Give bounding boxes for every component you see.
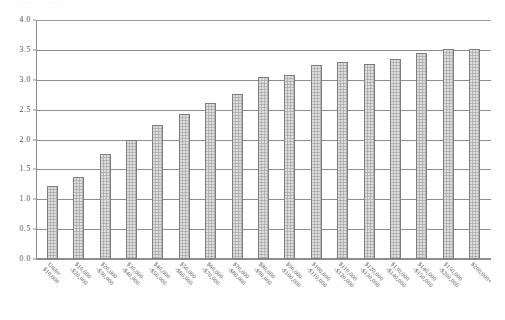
x-tick-label: $50,000-$60,000: [174, 261, 199, 286]
x-tick-label: $40,000-$50,000: [148, 261, 173, 286]
bar-slot: [409, 20, 435, 259]
x-label-slot: $70,000-$80,000: [224, 260, 250, 320]
x-label-slot: $140,000-$150,000: [409, 260, 435, 320]
bar-slot: [92, 20, 118, 259]
bar[interactable]: [258, 77, 269, 259]
bar[interactable]: [232, 94, 243, 259]
x-label-slot: $130,000-$140,000: [382, 260, 408, 320]
bar-slot: [329, 20, 355, 259]
y-tick-label: 0.0: [20, 255, 31, 263]
bar-slot: [250, 20, 276, 259]
bar-slot: [356, 20, 382, 259]
bar-slot: [303, 20, 329, 259]
x-label-slot: $50,000-$60,000: [171, 260, 197, 320]
bar[interactable]: [47, 186, 58, 259]
x-tick-label: $30,000-$40,000: [121, 261, 146, 286]
bars-container: [36, 20, 491, 259]
bar[interactable]: [284, 75, 295, 259]
bar-slot: [382, 20, 408, 259]
x-tick-label: $70,000-$80,000: [227, 261, 252, 286]
bar[interactable]: [205, 103, 216, 259]
bar[interactable]: [311, 65, 322, 259]
x-label-slot: $200,000+: [462, 260, 488, 320]
y-tick-label: 2.5: [20, 106, 31, 114]
bar-slot: [224, 20, 250, 259]
x-label-slot: $120,000-$130,000: [356, 260, 382, 320]
x-tick-label-line: $200,000+: [469, 261, 493, 285]
x-tick-label: $10,000-$20,000: [68, 261, 93, 286]
x-label-slot: $10,000-$20,000: [65, 260, 91, 320]
plot-area: 4.03.53.02.52.01.51.00.50.0: [36, 20, 491, 259]
x-tick-label: $200,000+: [469, 261, 493, 285]
y-tick-label: 3.5: [20, 46, 31, 54]
x-label-slot: $80,000-$90,000: [250, 260, 276, 320]
x-label-slot: Under$10,000: [39, 260, 65, 320]
x-label-slot: $20,000-$30,000: [92, 260, 118, 320]
x-tick-label: $20,000-$30,000: [95, 261, 120, 286]
bar[interactable]: [337, 62, 348, 259]
bar[interactable]: [73, 177, 84, 259]
y-tick-label: 2.0: [20, 136, 31, 144]
bar[interactable]: [469, 49, 480, 259]
x-label-slot: $40,000-$50,000: [145, 260, 171, 320]
x-label-slot: $100,000-$110,000: [303, 260, 329, 320]
bar-slot: [65, 20, 91, 259]
x-label-slot: $90,000-$100,000: [277, 260, 303, 320]
y-tick-label: 1.5: [20, 165, 31, 173]
bar[interactable]: [416, 53, 427, 259]
bar[interactable]: [390, 59, 401, 259]
bar-slot: [197, 20, 223, 259]
y-tick-label: 0.5: [20, 225, 31, 233]
bar-slot: [118, 20, 144, 259]
x-label-slot: $60,000-$70,000: [197, 260, 223, 320]
bar[interactable]: [364, 64, 375, 259]
x-tick-label: Under$10,000: [42, 261, 66, 285]
bar-slot: [39, 20, 65, 259]
bar-slot: [435, 20, 461, 259]
x-tick-label: $80,000-$90,000: [253, 261, 278, 286]
x-tick-label: $60,000-$70,000: [200, 261, 225, 286]
bar-slot: [277, 20, 303, 259]
y-tick-label: 3.0: [20, 76, 31, 84]
bar-chart-figure: ······ ···· ····· · · · · · 4.03.53.02.5…: [0, 0, 505, 320]
bar-slot: [171, 20, 197, 259]
bar[interactable]: [100, 154, 111, 259]
bar[interactable]: [179, 114, 190, 259]
title-remnant: ······ ···· ····· · · · · ·: [0, 0, 505, 11]
bar[interactable]: [152, 125, 163, 259]
bar[interactable]: [126, 140, 137, 259]
x-label-slot: $150,000-$200,000: [435, 260, 461, 320]
x-label-slot: $30,000-$40,000: [118, 260, 144, 320]
y-tick-label: 1.0: [20, 195, 31, 203]
bar[interactable]: [443, 49, 454, 259]
bar-slot: [145, 20, 171, 259]
y-tick-label: 4.0: [20, 16, 31, 24]
bar-slot: [462, 20, 488, 259]
x-axis-tick-labels: Under$10,000$10,000-$20,000$20,000-$30,0…: [36, 260, 491, 320]
x-label-slot: $110,000-$120,000: [329, 260, 355, 320]
